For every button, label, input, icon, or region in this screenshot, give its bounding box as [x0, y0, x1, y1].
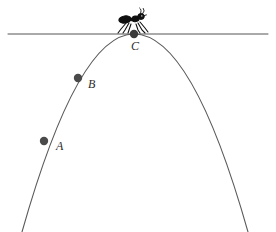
point-marker-a: [40, 137, 48, 145]
figure-graphic: [0, 0, 276, 232]
point-marker-b: [74, 74, 82, 82]
figure-canvas: A B C: [0, 0, 276, 232]
point-label-a: A: [56, 140, 63, 152]
parabola-curve: [22, 34, 248, 232]
point-label-b: B: [88, 78, 95, 90]
point-label-c: C: [131, 40, 139, 52]
point-marker-c: [130, 30, 138, 38]
ant-icon: [118, 8, 148, 33]
